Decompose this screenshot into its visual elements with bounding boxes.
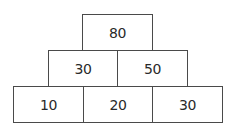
brick-middle-right: 50 bbox=[117, 50, 188, 87]
brick-value: 50 bbox=[144, 61, 161, 77]
brick-value: 30 bbox=[179, 97, 196, 113]
brick-middle-left: 30 bbox=[48, 50, 118, 87]
number-pyramid: 80 30 50 10 20 30 bbox=[0, 0, 229, 135]
brick-bottom-right: 30 bbox=[152, 86, 223, 123]
brick-value: 20 bbox=[109, 97, 126, 113]
brick-value: 30 bbox=[74, 61, 91, 77]
brick-top: 80 bbox=[82, 14, 153, 51]
brick-value: 80 bbox=[109, 25, 126, 41]
brick-value: 10 bbox=[40, 97, 57, 113]
brick-bottom-left: 10 bbox=[13, 86, 84, 123]
brick-bottom-center: 20 bbox=[83, 86, 153, 123]
